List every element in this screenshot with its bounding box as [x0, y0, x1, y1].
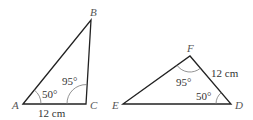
vertex-d-label: D: [234, 99, 243, 111]
side-ac-label: 12 cm: [38, 107, 66, 119]
vertex-c-label: C: [90, 99, 98, 111]
congruent-triangles-diagram: A B C 50° 95° 12 cm E F D 95° 50° 12 cm: [0, 0, 253, 120]
angle-d-label: 50°: [196, 90, 211, 102]
angle-arc-f: [177, 65, 200, 72]
vertex-f-label: F: [186, 42, 194, 54]
side-fd-label: 12 cm: [211, 67, 239, 79]
vertex-a-label: A: [11, 99, 19, 111]
angle-c-label: 95°: [62, 75, 77, 87]
angle-a-label: 50°: [42, 88, 57, 100]
angle-arc-d: [216, 93, 221, 104]
vertex-e-label: E: [111, 99, 119, 111]
angle-arc-a: [34, 90, 41, 104]
angle-f-label: 95°: [176, 76, 191, 88]
vertex-b-label: B: [90, 6, 97, 18]
angle-arc-c: [67, 85, 87, 104]
